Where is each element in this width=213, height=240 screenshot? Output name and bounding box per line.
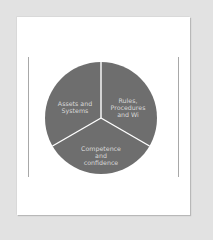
- segment-label-line: Rules,: [119, 97, 138, 104]
- right-divider-line: [178, 57, 179, 177]
- segment-label-line: Procedures: [111, 104, 146, 111]
- left-divider-line: [28, 57, 29, 177]
- pie-diagram: Assets and Systems Rules, Procedures and…: [44, 61, 158, 175]
- diagram-card: Assets and Systems Rules, Procedures and…: [17, 17, 190, 215]
- segment-label-line: and Wi: [117, 111, 139, 118]
- segment-label-line: confidence: [84, 159, 119, 166]
- segment-label-line: Systems: [62, 107, 89, 115]
- segment-label-line: and: [95, 152, 107, 159]
- segment-assets-and-systems: Assets and Systems: [58, 100, 92, 115]
- segment-label-line: Assets and: [58, 100, 92, 107]
